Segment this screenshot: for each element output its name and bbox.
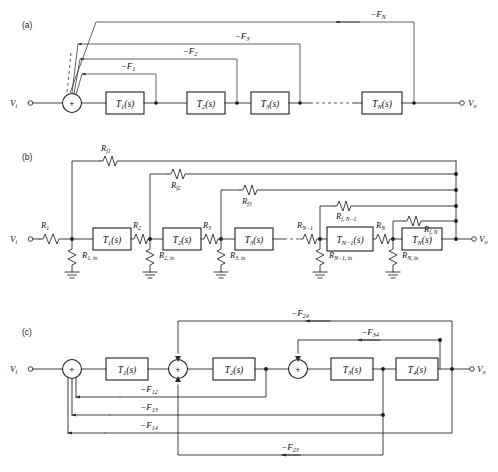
panel-c-label: (c): [22, 327, 32, 337]
panel-b-label: (b): [22, 152, 33, 162]
panel-c: (c) Vi + T1(s) + T2(s) + T3(s) T4(s): [10, 308, 486, 455]
panel-a-block-t2-label: T2(s): [197, 99, 216, 110]
panel-a-output-label: Vo: [468, 98, 477, 109]
panel-b-res-r2in: [146, 239, 154, 272]
panel-c-summer-3-plus: +: [295, 365, 300, 375]
panel-c-block-t3-label: T3(s): [343, 365, 362, 376]
panel-a-block-t1-label: T1(s): [116, 99, 135, 110]
panel-b-res-r3-label: R3: [202, 220, 211, 231]
panel-a-fb3-label: −F3: [235, 31, 250, 42]
panel-c-block-t4-label: T4(s): [408, 365, 427, 376]
panel-c-block-t2-label: T2(s): [225, 365, 244, 376]
panel-a-fbn-label: −FN: [370, 9, 387, 20]
panel-b-fb2-label: Rf2: [170, 180, 181, 191]
panel-b-input-label: Vi: [10, 234, 18, 245]
panel-a-fb2-label: −F2: [183, 46, 198, 57]
panel-b-res-r3: [201, 234, 221, 244]
panel-b-res-rnin: [389, 239, 397, 272]
panel-b-block-tn-label: TN(s): [412, 235, 432, 246]
panel-c-output-terminal: [470, 367, 475, 372]
panel-b: (b) Vi R1 R1, in T1(s) R2 R2, in T: [10, 143, 488, 278]
panel-b-res-r1in-label: R1, in: [81, 250, 98, 261]
panel-a-input-terminal: [28, 101, 33, 106]
panel-b-res-r2in-label: R2, in: [158, 250, 175, 261]
panel-b-res-rn1in: [316, 239, 324, 272]
panel-b-res-r1-label: R1: [40, 220, 49, 231]
panel-b-res-rn: [373, 234, 393, 244]
panel-c-f14-label: −F14: [140, 420, 158, 431]
panel-b-fb1-left: [72, 161, 100, 239]
panel-b-input-terminal: [28, 237, 33, 242]
panel-b-res-r3in-label: R3, in: [229, 250, 246, 261]
panel-b-fbn-label: Rf, N: [423, 224, 439, 235]
panel-b-block-t1-label: T1(s): [103, 235, 122, 246]
panel-a: (a) Vi + T1(s) T2(s) T3(s) TN(s) Vo: [10, 9, 477, 114]
panel-b-fbn-res: [404, 216, 456, 226]
panel-c-f23-label: −F23: [281, 442, 299, 453]
panel-a-summer-plus: +: [69, 99, 74, 109]
panel-a-fbn-path: [96, 22, 414, 103]
panel-a-fb2-into-summer: [74, 59, 80, 94]
panel-b-output-terminal: [472, 237, 477, 242]
panel-b-fb1-label: Rf1: [100, 143, 111, 154]
panel-a-block-t3-label: T3(s): [261, 99, 280, 110]
figure-root: (a) Vi + T1(s) T2(s) T3(s) TN(s) Vo: [0, 0, 498, 472]
panel-c-summer-2-plus: +: [175, 365, 180, 375]
panel-b-output-label: Vo: [479, 234, 488, 245]
panel-b-block-t3-label: T3(s): [245, 235, 264, 246]
panel-a-input-label: Vi: [10, 98, 18, 109]
panel-c-output-label: Vo: [477, 364, 486, 375]
panel-b-block-t2-label: T2(s): [173, 235, 192, 246]
panel-a-output-terminal: [460, 101, 465, 106]
panel-c-f34-tap: [438, 338, 442, 342]
panel-c-summer-1-plus: +: [69, 365, 74, 375]
block-diagram-figure: (a) Vi + T1(s) T2(s) T3(s) TN(s) Vo: [0, 0, 498, 472]
panel-a-fbn-into-summer: [70, 22, 96, 93]
panel-b-fb3-res: [240, 185, 456, 195]
panel-b-res-rn-label: RN: [375, 220, 386, 231]
panel-a-label: (a): [22, 20, 33, 30]
panel-c-input-label: Vi: [10, 364, 18, 375]
panel-c-f12-label: −F12: [140, 384, 158, 395]
panel-a-extra-loops-dash: [67, 53, 71, 93]
panel-b-fbn1-label: Rf, N−1: [335, 211, 356, 222]
panel-b-res-rn1in-label: RN−1, in: [328, 250, 352, 261]
panel-a-fb1-label: −F1: [121, 61, 136, 72]
panel-b-res-r2-label: R2: [132, 220, 141, 231]
panel-b-res-rnin-label: RN, in: [401, 250, 419, 261]
panel-c-f34-label: −F34: [361, 327, 379, 338]
panel-b-res-r3in: [217, 239, 225, 272]
panel-b-fbn1-res: [334, 201, 456, 211]
panel-b-res-r1: [40, 234, 72, 244]
panel-b-res-rn1-label: RN−1: [296, 220, 313, 231]
panel-b-fb3-label: Rf3: [241, 196, 252, 207]
panel-b-fb1-res: [100, 156, 456, 166]
panel-c-block-t1-label: T1(s): [118, 365, 137, 376]
panel-b-res-r2: [131, 234, 150, 244]
panel-c-input-terminal: [28, 367, 33, 372]
panel-a-block-tn-label: TN(s): [372, 99, 392, 110]
panel-b-res-rn1: [300, 234, 320, 244]
panel-b-res-r1in: [68, 239, 76, 272]
panel-c-f24-label: −F24: [291, 308, 309, 319]
panel-c-f13-label: −F13: [140, 402, 158, 413]
panel-b-fb2-res: [168, 169, 456, 179]
